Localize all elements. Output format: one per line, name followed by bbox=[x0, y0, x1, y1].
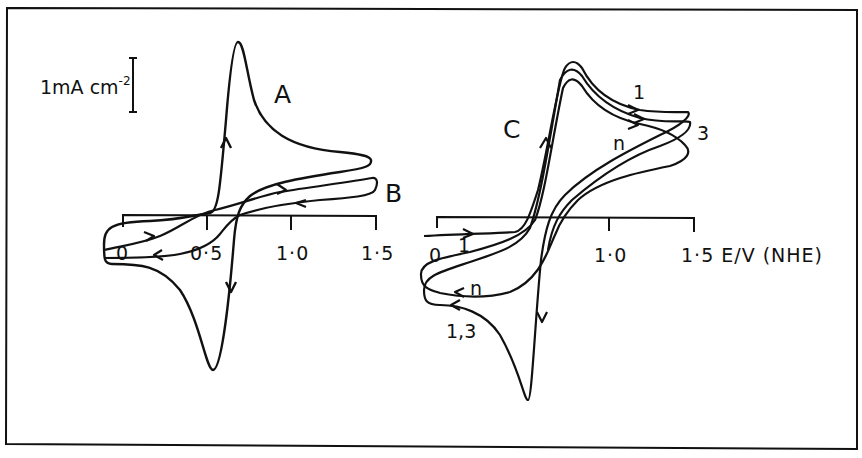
left-tick-0-5: 0·5 bbox=[190, 244, 223, 263]
right-tick-0: 0 bbox=[429, 246, 442, 265]
right-tick-1-5-axis-title: 1·5 E/V (NHE) bbox=[681, 246, 823, 265]
cycle-label-1-left: 1 bbox=[458, 236, 470, 255]
curve-label-C: C bbox=[503, 117, 520, 142]
curve-label-A: A bbox=[274, 82, 291, 107]
scale-bar-label: 1mA cm-2 bbox=[40, 77, 131, 97]
curve-label-B: B bbox=[385, 181, 402, 206]
curve-B bbox=[104, 178, 377, 260]
scale-unit-text: 1mA cm bbox=[40, 76, 119, 98]
curve-C bbox=[421, 62, 690, 400]
right-x-axis bbox=[437, 217, 694, 232]
cycle-label-n-top: n bbox=[613, 134, 625, 153]
cycle-label-1-top: 1 bbox=[633, 83, 645, 102]
cycle-label-n-bottom: n bbox=[470, 279, 482, 298]
cycle-label-3: 3 bbox=[697, 124, 709, 143]
left-x-axis bbox=[123, 215, 376, 230]
left-tick-1-0: 1·0 bbox=[276, 244, 309, 263]
scale-unit-exponent: -2 bbox=[119, 74, 131, 88]
left-tick-1-5: 1·5 bbox=[361, 244, 394, 263]
right-tick-1-0: 1·0 bbox=[594, 246, 627, 265]
left-tick-0: 0 bbox=[116, 244, 129, 263]
cycle-label-1-3: 1,3 bbox=[446, 322, 476, 341]
curve-A bbox=[104, 42, 371, 370]
cyclic-voltammogram-figure bbox=[0, 0, 862, 458]
